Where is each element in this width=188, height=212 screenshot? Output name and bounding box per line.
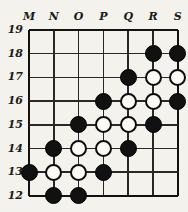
stone-white-o13[interactable] <box>70 164 87 181</box>
stone-white-r16[interactable] <box>145 93 162 110</box>
stone-black-q17[interactable] <box>120 69 137 86</box>
stone-black-s18[interactable] <box>169 45 186 62</box>
stone-black-m13[interactable] <box>21 164 38 181</box>
stone-black-n14[interactable] <box>45 140 62 157</box>
stone-white-s17[interactable] <box>169 69 186 86</box>
stone-black-r15[interactable] <box>145 116 162 133</box>
stone-black-o15[interactable] <box>70 116 87 133</box>
stone-white-q15[interactable] <box>120 116 137 133</box>
stone-black-q14[interactable] <box>120 140 137 157</box>
stone-white-o14[interactable] <box>70 140 87 157</box>
stone-layer <box>0 0 188 212</box>
stone-white-p14[interactable] <box>95 140 112 157</box>
stone-black-p13[interactable] <box>95 164 112 181</box>
stone-black-o12[interactable] <box>70 187 87 204</box>
stone-white-q16[interactable] <box>120 93 137 110</box>
go-board-figure: MNOPQRS 1918171615141312 <box>0 0 188 212</box>
stone-black-n12[interactable] <box>45 187 62 204</box>
stone-black-p16[interactable] <box>95 93 112 110</box>
stone-white-r17[interactable] <box>145 69 162 86</box>
stone-white-p15[interactable] <box>95 116 112 133</box>
stone-white-n13[interactable] <box>45 164 62 181</box>
stone-black-r18[interactable] <box>145 45 162 62</box>
stone-black-s16[interactable] <box>169 93 186 110</box>
